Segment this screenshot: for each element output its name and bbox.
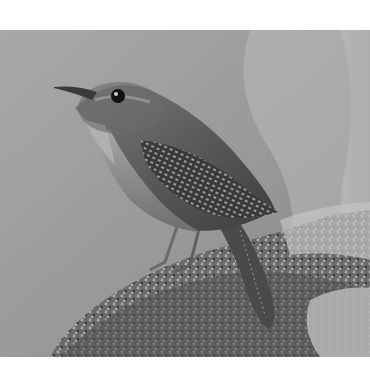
wren-illustration: [0, 30, 370, 357]
bird-photo: [0, 30, 370, 357]
